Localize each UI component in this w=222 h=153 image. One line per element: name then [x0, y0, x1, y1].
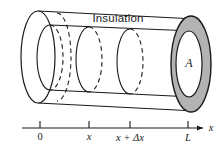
- area-label: A: [184, 56, 193, 70]
- axis-name-label: x: [208, 122, 214, 133]
- insulation-label: Insulation: [92, 12, 143, 24]
- cross-section-ellipse-x-delta-front: [117, 29, 130, 94]
- axis-tick-label-0: 0: [37, 131, 42, 142]
- cross-section-ellipse-x-front: [76, 27, 89, 92]
- axis-tick-label-x-delta: x + Δx: [115, 132, 144, 143]
- figure-canvas: A Insulation 0 x x + Δx L x: [0, 0, 222, 153]
- heat-conduction-rod-figure: A Insulation 0 x x + Δx L x: [0, 0, 222, 153]
- axis-tick-label-L: L: [184, 132, 191, 143]
- axis-tick-label-x: x: [86, 131, 92, 142]
- insulation-bottom-edge: [38, 103, 196, 111]
- cross-section-ellipse-x-delta-hidden: [130, 29, 143, 94]
- rod-top-edge: [50, 25, 193, 31]
- axis-arrow-right-icon: [197, 126, 203, 131]
- cross-section-ellipse-x-hidden: [89, 27, 102, 92]
- rod-bottom-edge: [50, 90, 193, 97]
